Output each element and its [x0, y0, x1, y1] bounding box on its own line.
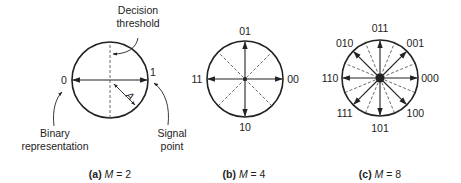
signal-point-label-1: Signal [157, 127, 186, 139]
point-label-000: 000 [421, 72, 439, 84]
caption-m2: (a) M = 2 [89, 168, 131, 180]
origin-dot [376, 74, 385, 83]
point-label-111: 111 [337, 107, 353, 119]
point-label-110: 110 [322, 72, 339, 84]
signal-vector-010 [354, 52, 380, 78]
caption-m8: (c) M = 8 [359, 168, 401, 180]
point-label-10: 10 [239, 121, 251, 133]
binary-rep-label-2: representation [21, 140, 88, 152]
signal-point-leader [154, 83, 168, 125]
decision-threshold-label-1: Decision [118, 4, 158, 16]
point-label-011: 011 [372, 22, 389, 34]
psk-signal-constellations: A Decision threshold 0 1 Binary represen… [0, 0, 461, 183]
point-label-100: 100 [407, 107, 425, 119]
point-label-001: 001 [407, 37, 425, 49]
point-label-0: 0 [61, 74, 67, 86]
amplitude-label: A [123, 88, 137, 102]
origin-dot [243, 77, 247, 81]
point-label-101: 101 [371, 122, 389, 134]
point-label-010: 010 [336, 37, 354, 49]
binary-rep-label-1: Binary [40, 127, 71, 139]
decision-threshold-label-2: threshold [116, 17, 159, 29]
point-label-1: 1 [150, 66, 156, 78]
point-label-00: 00 [287, 73, 299, 85]
signal-vector-100 [380, 78, 406, 104]
diagram-m2: A Decision threshold 0 1 Binary represen… [21, 4, 186, 180]
caption-m4: (b) M = 4 [223, 168, 266, 180]
point-label-01: 01 [239, 25, 251, 37]
binary-rep-leader [53, 92, 62, 126]
diagram-m4: 00011110 (b) M = 4 [192, 25, 299, 180]
diagram-m8: 000001011010110111101100 (c) M = 8 [322, 22, 439, 180]
signal-vector-111 [354, 78, 380, 104]
signal-vector-001 [380, 52, 406, 78]
point-label-11: 11 [192, 73, 203, 85]
signal-point-label-2: point [161, 140, 184, 152]
